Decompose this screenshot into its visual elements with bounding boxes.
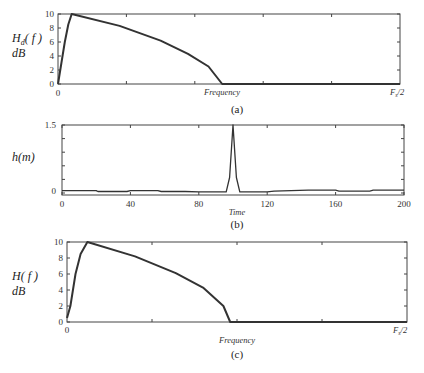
svg-text:120: 120 <box>260 199 274 209</box>
svg-text:4: 4 <box>59 285 64 295</box>
svg-text:10: 10 <box>45 9 55 19</box>
panel-c-y-ticks: 0246810 <box>54 237 407 327</box>
svg-text:6: 6 <box>50 37 55 47</box>
svg-text:1.5: 1.5 <box>45 120 57 130</box>
svg-text:2: 2 <box>50 65 55 75</box>
panel-b-ylabel: h(m) <box>12 150 35 164</box>
svg-text:2: 2 <box>59 301 64 311</box>
panel-c-x-ticks <box>152 242 322 322</box>
panel-c-x-end-label: Fs/2 <box>392 325 408 336</box>
panel-c-ylabel-unit: dB <box>12 284 26 298</box>
svg-text:160: 160 <box>329 199 343 209</box>
panel-c-frequency-response: 0246810 H( f ) dB 0 Frequency Fs/2 (c) <box>11 237 408 361</box>
svg-text:4: 4 <box>50 51 55 61</box>
panel-a-frame <box>58 14 400 84</box>
svg-text:6: 6 <box>59 269 64 279</box>
panel-b-xlabel: Time <box>229 207 246 217</box>
panel-a-x-end-label: Fs/2 <box>389 87 405 98</box>
svg-text:8: 8 <box>50 23 55 33</box>
svg-text:0: 0 <box>52 186 57 196</box>
panel-a-x-zero: 0 <box>56 88 61 98</box>
svg-text:200: 200 <box>397 199 411 209</box>
svg-text:80: 80 <box>194 199 204 209</box>
panel-c-curve <box>67 242 407 322</box>
panel-c-caption: (c) <box>231 348 244 361</box>
figure: 0246810 Hd( f ) dB 0 Frequency Fs/2 (a) … <box>0 0 424 373</box>
svg-text:10: 10 <box>54 237 64 247</box>
panel-a-ylabel-unit: dB <box>12 46 26 60</box>
panel-b-y-ticks: 01.5 <box>45 120 404 196</box>
svg-text:0: 0 <box>50 79 55 89</box>
svg-text:0: 0 <box>60 199 65 209</box>
svg-text:40: 40 <box>126 199 136 209</box>
panel-c-x-zero: 0 <box>65 325 70 335</box>
panel-c-xlabel: Frequency <box>218 335 255 345</box>
panel-a-curve <box>58 14 400 84</box>
panel-c-frame <box>67 242 407 322</box>
panel-a-frequency-response: 0246810 Hd( f ) dB 0 Frequency Fs/2 (a) <box>11 9 405 116</box>
panel-a-xlabel: Frequency <box>203 87 240 97</box>
panel-b-frame <box>62 125 404 195</box>
panel-b-impulse-response: 01.5 04080120160200 h(m) Time (b) <box>12 120 411 231</box>
svg-text:0: 0 <box>59 317 64 327</box>
panel-a-x-ticks <box>126 14 331 84</box>
panel-b-caption: (b) <box>231 218 244 231</box>
svg-text:8: 8 <box>59 253 64 263</box>
panel-b-curve <box>62 125 404 192</box>
panel-a-caption: (a) <box>231 103 244 116</box>
panel-a-ylabel: Hd( f ) <box>11 31 42 47</box>
panel-c-ylabel: H( f ) <box>11 269 38 283</box>
